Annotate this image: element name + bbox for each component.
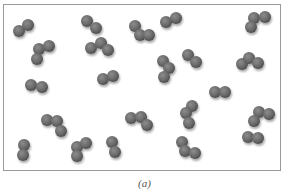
diatomic-molecule: [97, 70, 119, 85]
atom: [245, 21, 257, 33]
triatomic-molecule: [31, 40, 55, 65]
triatomic-molecule: [71, 137, 92, 162]
atom: [170, 12, 182, 24]
triatomic-molecule: [245, 11, 271, 33]
atom: [17, 149, 29, 161]
atom: [109, 146, 121, 158]
figure-caption: (a): [0, 177, 289, 189]
diatomic-molecule: [17, 139, 30, 161]
triatomic-molecule: [236, 52, 264, 70]
diatomic-molecule: [13, 19, 34, 37]
atom: [252, 57, 264, 69]
atom: [36, 81, 48, 93]
triatomic-molecule: [41, 114, 67, 137]
molecules-canvas: [0, 0, 289, 193]
atom: [71, 150, 83, 162]
atom: [43, 40, 55, 52]
atom: [25, 79, 37, 91]
atom: [183, 117, 195, 129]
triatomic-molecule: [248, 106, 275, 127]
diatomic-molecule: [160, 12, 182, 28]
triatomic-molecule: [180, 100, 198, 129]
diatomic-molecule: [182, 49, 202, 68]
diatomic-molecule: [81, 15, 102, 34]
atom: [22, 19, 34, 31]
atom: [158, 71, 170, 83]
atom: [31, 53, 43, 65]
atom: [107, 70, 119, 82]
triatomic-molecule: [157, 55, 175, 83]
triatomic-molecule: [129, 20, 155, 41]
atom: [248, 115, 260, 127]
atom: [252, 132, 264, 144]
atom: [189, 147, 201, 159]
atom: [179, 145, 191, 157]
diatomic-molecule: [242, 131, 264, 144]
diatomic-molecule: [25, 79, 48, 93]
atom: [259, 11, 271, 23]
atom: [219, 86, 231, 98]
triatomic-molecule: [125, 111, 153, 131]
triatomic-molecule: [176, 136, 201, 159]
diatomic-molecule: [106, 136, 121, 158]
atom: [102, 44, 114, 56]
atom: [80, 137, 92, 149]
triatomic-molecule: [85, 37, 114, 56]
atom: [143, 29, 155, 41]
atom: [90, 22, 102, 34]
atom: [141, 119, 153, 131]
atom: [190, 56, 202, 68]
atom: [55, 125, 67, 137]
diatomic-molecule: [209, 86, 231, 98]
atom: [263, 108, 275, 120]
